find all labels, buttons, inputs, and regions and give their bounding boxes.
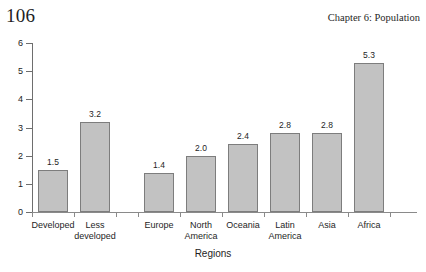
bar-value-label: 2.0 — [176, 144, 226, 153]
y-axis-tick — [26, 156, 32, 157]
y-axis-line — [32, 43, 33, 213]
bar-value-label: 3.2 — [70, 110, 120, 119]
bar-value-label: 2.4 — [218, 132, 268, 141]
x-axis-tick — [306, 213, 307, 217]
x-axis-line — [32, 212, 417, 213]
y-axis-tick-label: 6 — [8, 39, 23, 48]
x-axis-tick — [116, 213, 117, 217]
bar-value-label: 2.8 — [302, 121, 352, 130]
x-axis-tick — [390, 213, 391, 217]
bar-label-line: Africa — [340, 220, 398, 231]
page-number: 106 — [6, 5, 35, 27]
bar — [354, 63, 384, 212]
x-axis-title: Regions — [0, 248, 426, 260]
y-axis-tick-label: 0 — [8, 208, 23, 217]
y-axis-tick-label: 2 — [8, 152, 23, 161]
bar — [186, 156, 216, 212]
y-axis-tick-label: 5 — [8, 67, 23, 76]
bar-label-line: developed — [66, 231, 124, 242]
y-axis-tick — [26, 71, 32, 72]
bar — [38, 170, 68, 212]
x-axis-category-label: Africa — [340, 220, 398, 231]
x-axis-tick — [222, 213, 223, 217]
x-axis-tick — [264, 213, 265, 217]
x-axis-tick — [180, 213, 181, 217]
plot-area: 0123456 1.5Developed3.2Lessdeveloped1.4E… — [0, 32, 426, 272]
bar-label-line: America — [172, 231, 230, 242]
bar-label-line: America — [256, 231, 314, 242]
bar-value-label: 1.4 — [134, 161, 184, 170]
y-axis-tick-label: 1 — [8, 180, 23, 189]
y-axis-tick — [26, 43, 32, 44]
y-axis-tick — [26, 184, 32, 185]
bar — [270, 133, 300, 212]
x-axis-tick — [32, 213, 33, 217]
bar — [312, 133, 342, 212]
bar-chart-figure: 0123456 1.5Developed3.2Lessdeveloped1.4E… — [0, 32, 426, 272]
bar — [228, 144, 258, 212]
page-header: 106 Chapter 6: Population — [0, 0, 426, 32]
bar-label-line: Less — [66, 220, 124, 231]
x-axis-category-label: Lessdeveloped — [66, 220, 124, 241]
y-axis-tick — [26, 128, 32, 129]
y-axis-tick-label: 3 — [8, 124, 23, 133]
bar-value-label: 1.5 — [28, 158, 78, 167]
x-axis-tick — [138, 213, 139, 217]
chapter-running-head: Chapter 6: Population — [328, 11, 420, 24]
bar — [80, 122, 110, 212]
bar-value-label: 5.3 — [344, 51, 394, 60]
y-axis-tick-label: 4 — [8, 95, 23, 104]
bar — [144, 173, 174, 212]
x-axis-tick — [348, 213, 349, 217]
y-axis-tick — [26, 99, 32, 100]
x-axis-tick — [74, 213, 75, 217]
